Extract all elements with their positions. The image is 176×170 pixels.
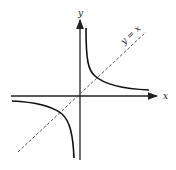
x-axis-label: x — [163, 91, 168, 101]
diagram-canvas: x y y = x — [0, 0, 176, 170]
y-axis-label: y — [77, 8, 84, 18]
line-label: y = x — [118, 23, 143, 47]
hyperbola-branch-negative — [12, 101, 74, 158]
dashed-line-y-equals-x — [18, 32, 146, 152]
